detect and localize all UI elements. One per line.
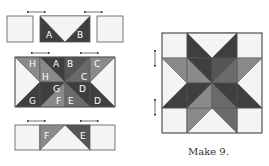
label-g: G xyxy=(29,96,36,106)
make-count-caption: Make 9. xyxy=(188,146,229,157)
label-d: D xyxy=(79,84,86,94)
label-d: D xyxy=(94,96,101,106)
label-c: C xyxy=(81,72,87,82)
finished-star-block xyxy=(155,33,262,133)
label-f: F xyxy=(56,96,61,106)
label-f: F xyxy=(44,131,49,141)
top-row-unit: A B xyxy=(7,12,123,53)
label-g: G xyxy=(53,84,60,94)
label-b: B xyxy=(67,59,73,69)
bottom-row-unit: F E xyxy=(15,121,115,150)
bottom-left-square xyxy=(15,125,40,150)
top-left-square xyxy=(7,16,33,42)
label-e: E xyxy=(68,96,74,106)
quilt-diagram: A B H A B C H C G xyxy=(0,0,269,166)
label-a: A xyxy=(46,30,53,40)
label-b: B xyxy=(77,30,83,40)
label-a: A xyxy=(53,59,60,69)
label-c: C xyxy=(94,59,100,69)
top-right-square xyxy=(97,16,123,42)
label-h: H xyxy=(42,72,49,82)
label-e: E xyxy=(80,131,86,141)
label-h: H xyxy=(29,59,36,69)
middle-row-unit: H A B C H C G D G F E D xyxy=(15,57,115,107)
bottom-right-square xyxy=(90,125,115,150)
